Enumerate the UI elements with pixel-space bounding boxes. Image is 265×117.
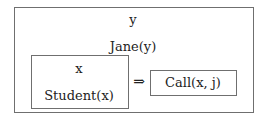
antecedent-condition: Student(x) (44, 88, 114, 103)
antecedent-referent: x (75, 61, 82, 76)
outer-referent: y (129, 12, 136, 27)
outer-condition: Jane(y) (110, 39, 157, 54)
consequent-condition: Call(x, j) (165, 75, 221, 90)
implication-arrow-icon: ⇒ (133, 74, 145, 89)
